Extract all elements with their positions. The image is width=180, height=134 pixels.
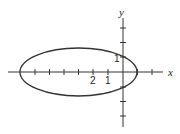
x-axis-label: x bbox=[167, 66, 173, 78]
x-tick-label-2: 2 bbox=[90, 75, 96, 86]
y-axis-label: y bbox=[118, 6, 124, 18]
ellipse-graph: x y 2 1 1 bbox=[0, 0, 180, 134]
y-tick-label-1: 1 bbox=[114, 53, 120, 64]
x-tick-label-1: 1 bbox=[105, 75, 111, 86]
